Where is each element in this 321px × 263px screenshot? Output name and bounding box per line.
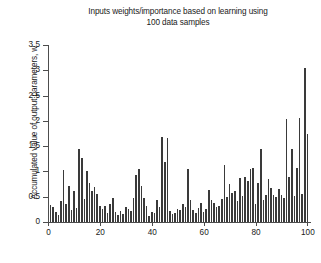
bar — [86, 171, 88, 222]
bar — [200, 203, 202, 222]
bar — [73, 191, 75, 222]
bar — [257, 183, 259, 222]
bar — [231, 193, 233, 222]
bar — [52, 207, 54, 222]
bar — [169, 211, 171, 222]
bar — [190, 200, 192, 222]
chart-figure: Inputs weights/importance based on learn… — [0, 0, 321, 263]
bar — [143, 198, 145, 222]
bar — [216, 207, 218, 222]
bar — [167, 138, 169, 222]
bar — [84, 199, 86, 222]
bar — [125, 207, 127, 222]
y-tick: 3.5 — [43, 45, 48, 46]
bar — [244, 177, 246, 223]
bar — [291, 149, 293, 222]
bar — [275, 197, 277, 222]
y-tick: 1 — [43, 171, 48, 172]
bar — [63, 170, 65, 222]
x-tick-label: 60 — [200, 228, 209, 237]
x-axis-line — [48, 222, 311, 223]
x-tick-label: 40 — [148, 228, 157, 237]
bar — [104, 206, 106, 222]
bar — [128, 209, 130, 222]
bar — [107, 213, 109, 222]
bar — [146, 206, 148, 222]
bar — [91, 191, 93, 222]
bar — [115, 212, 117, 222]
bar — [286, 119, 288, 222]
bar — [182, 204, 184, 222]
bar — [195, 213, 197, 222]
bar — [68, 186, 70, 222]
bar — [270, 188, 272, 222]
bar — [283, 198, 285, 222]
bar — [151, 212, 153, 222]
y-tick-label: 1.5 — [29, 141, 40, 150]
chart-title: Inputs weights/importance based on learn… — [46, 6, 310, 28]
bar — [148, 216, 150, 222]
bar — [138, 169, 140, 222]
bar — [224, 165, 226, 222]
bar — [117, 215, 119, 222]
y-tick-label: 0 — [35, 217, 40, 226]
bar — [159, 207, 161, 222]
bar — [265, 195, 267, 222]
bar — [208, 190, 210, 222]
bar — [218, 206, 220, 222]
bar — [161, 137, 163, 222]
bar — [164, 162, 166, 222]
y-tick-label: 3 — [35, 65, 40, 74]
bar — [65, 204, 67, 222]
bar — [307, 134, 309, 222]
bar — [112, 198, 114, 222]
y-tick: 3 — [43, 70, 48, 71]
bar — [304, 68, 306, 222]
bar — [185, 207, 187, 222]
bar — [229, 184, 231, 222]
x-tick-label: 100 — [301, 228, 315, 237]
bar — [174, 213, 176, 222]
bar — [250, 169, 252, 222]
bar — [172, 214, 174, 222]
y-tick-label: 2.5 — [29, 91, 40, 100]
bar — [50, 205, 52, 222]
bar — [179, 210, 181, 222]
bar — [122, 214, 124, 222]
bar — [177, 209, 179, 222]
y-tick-label: 3.5 — [29, 40, 40, 49]
x-tick-label: 20 — [96, 228, 105, 237]
bar — [192, 210, 194, 222]
x-tick: 40 — [152, 222, 153, 226]
bar — [60, 201, 62, 222]
x-tick-label: 0 — [46, 228, 51, 237]
bar — [55, 212, 57, 222]
bar — [260, 149, 262, 222]
x-tick-label: 80 — [251, 228, 260, 237]
x-tick: 80 — [256, 222, 257, 226]
bar — [213, 203, 215, 222]
bar — [120, 211, 122, 222]
bar — [81, 158, 83, 222]
x-tick: 20 — [100, 222, 101, 226]
bar — [301, 194, 303, 222]
bar — [141, 186, 143, 222]
y-tick: 1.5 — [43, 146, 48, 147]
bar — [281, 195, 283, 222]
bar — [154, 213, 156, 222]
bar — [288, 177, 290, 222]
bar — [221, 199, 223, 222]
y-tick: 2 — [43, 121, 48, 122]
bar — [239, 178, 241, 223]
bar — [255, 204, 257, 222]
bar — [94, 187, 96, 222]
bar — [133, 198, 135, 222]
bar — [203, 212, 205, 222]
bar — [109, 204, 111, 222]
y-tick-label: 1 — [35, 166, 40, 175]
bar — [278, 189, 280, 222]
y-tick: 2.5 — [43, 96, 48, 97]
bar — [89, 183, 91, 222]
bar — [130, 211, 132, 222]
bar — [205, 209, 207, 222]
